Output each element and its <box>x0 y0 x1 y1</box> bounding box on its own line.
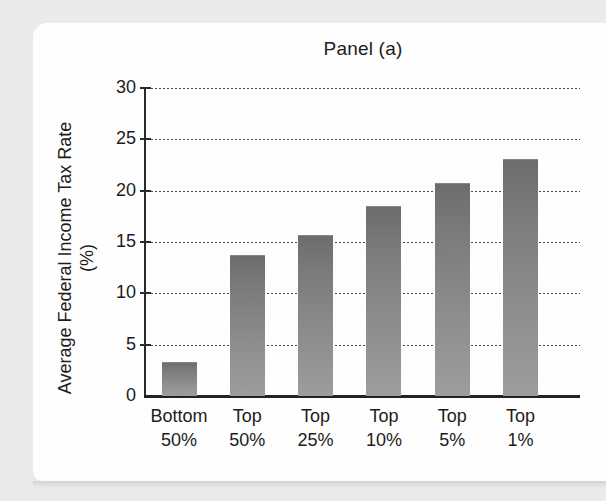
plot-area <box>146 88 580 396</box>
y-axis-title: Average Federal Income Tax Rate (%) <box>54 108 98 408</box>
x-tick-label-6: Top1% <box>475 404 567 452</box>
y-tick-label-15: 15 <box>92 231 136 252</box>
bar-top-50 <box>230 255 265 396</box>
y-tick-30 <box>140 87 151 89</box>
gridline-30 <box>146 88 580 89</box>
x-tick-label-6-line-1: Top <box>475 404 567 428</box>
bar-top-10 <box>366 206 401 396</box>
y-tick-5 <box>140 344 151 346</box>
chart-title: Panel (a) <box>146 38 580 60</box>
y-tick-label-10: 10 <box>92 282 136 303</box>
y-tick-15 <box>140 241 151 243</box>
bar-top-1 <box>503 159 538 396</box>
x-tick-label-6-line-2: 1% <box>475 428 567 452</box>
y-tick-20 <box>140 190 151 192</box>
y-tick-label-30: 30 <box>92 77 136 98</box>
bar-top-5 <box>435 183 470 396</box>
y-tick-10 <box>140 292 151 294</box>
bar-chart-figure: Panel (a) Average Federal Income Tax Rat… <box>0 0 606 501</box>
y-tick-label-5: 5 <box>92 334 136 355</box>
gridline-25 <box>146 139 580 140</box>
y-tick-label-0: 0 <box>92 385 136 406</box>
y-tick-label-20: 20 <box>92 180 136 201</box>
bar-top-25 <box>298 235 333 396</box>
y-tick-label-25: 25 <box>92 128 136 149</box>
y-axis-title-line-1: Average Federal Income <box>55 197 75 394</box>
bar-bottom-50 <box>162 362 197 396</box>
y-tick-25 <box>140 138 151 140</box>
page-background: Panel (a) Average Federal Income Tax Rat… <box>0 0 606 501</box>
